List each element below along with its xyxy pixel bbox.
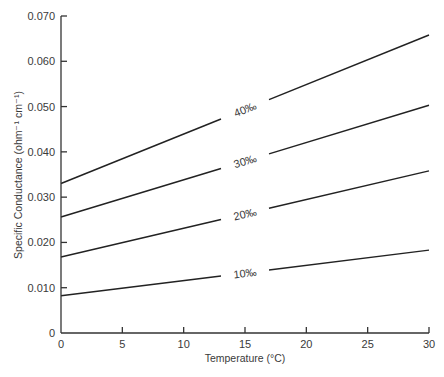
axes (61, 16, 429, 333)
x-tick-label: 0 (58, 338, 64, 350)
y-tick-label: 0.010 (27, 282, 55, 294)
y-tick-label: 0 (49, 327, 55, 339)
x-tick-label: 10 (178, 338, 190, 350)
series-line-segment (61, 168, 221, 217)
series-label: 40‰ (232, 99, 258, 119)
series-20-permil: 20‰ (61, 171, 429, 257)
y-tick-label: 0.050 (27, 101, 55, 113)
series-line-segment (61, 220, 221, 257)
plot-series-group: 10‰20‰30‰40‰ (61, 35, 429, 296)
series-line-segment (269, 171, 429, 208)
series-line-segment (61, 119, 221, 184)
x-tick-label: 15 (239, 338, 251, 350)
x-tick-label: 20 (300, 338, 312, 350)
line-chart: 10‰20‰30‰40‰ 00.0100.0200.0300.0400.0500… (0, 0, 444, 377)
series-line-segment (61, 276, 221, 296)
series-10-permil: 10‰ (61, 250, 429, 296)
series-line-segment (269, 250, 429, 270)
x-tick-label: 5 (119, 338, 125, 350)
series-label: 30‰ (232, 152, 258, 170)
y-tick-label: 0.070 (27, 10, 55, 22)
series-label: 20‰ (232, 205, 257, 222)
x-tick-label: 25 (362, 338, 374, 350)
series-line-segment (269, 105, 429, 154)
y-axis-title: Specific Conductance (ohm⁻¹ cm⁻¹) (12, 91, 24, 259)
x-axis-title: Temperature (°C) (205, 352, 286, 364)
y-tick-label: 0.030 (27, 191, 55, 203)
y-tick-label: 0.040 (27, 146, 55, 158)
series-label: 10‰ (233, 266, 258, 281)
series-line-segment (269, 35, 429, 100)
y-tick-label: 0.060 (27, 55, 55, 67)
x-tick-label: 30 (423, 338, 435, 350)
x-axis-ticks: 051015202530 (58, 327, 435, 350)
y-tick-label: 0.020 (27, 236, 55, 248)
